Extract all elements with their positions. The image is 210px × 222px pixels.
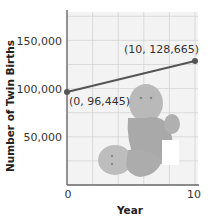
x-axis-title: Year (116, 204, 144, 216)
line-chart: 150,000 100,000 50,000 0 10 Year Number … (0, 0, 210, 222)
x-tick-label: 0 (65, 188, 72, 201)
point-label: (10, 128,665) (124, 43, 199, 56)
y-tick-label: 50,000 (24, 131, 63, 144)
y-axis-title: Number of Twin Births (4, 40, 16, 172)
point-label: (0, 96,445) (69, 95, 130, 108)
data-point (192, 58, 198, 64)
x-tick-label: 10 (187, 188, 201, 201)
y-tick-label: 100,000 (17, 83, 63, 96)
y-tick-label: 150,000 (17, 35, 63, 48)
